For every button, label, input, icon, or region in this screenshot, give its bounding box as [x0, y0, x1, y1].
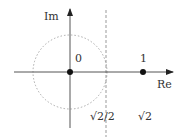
- sqrt2-label: √2: [138, 110, 152, 123]
- complex-plane-diagram: Im Re 0 1 √2/2 √2: [0, 0, 180, 137]
- point-one: [140, 69, 146, 75]
- y-axis-label: Im: [44, 10, 59, 23]
- one-label: 1: [140, 52, 147, 65]
- sqrt2-over-2-label: √2/2: [90, 110, 115, 123]
- origin-label: 0: [75, 52, 82, 65]
- point-origin: [67, 69, 73, 75]
- x-axis-label: Re: [157, 78, 172, 91]
